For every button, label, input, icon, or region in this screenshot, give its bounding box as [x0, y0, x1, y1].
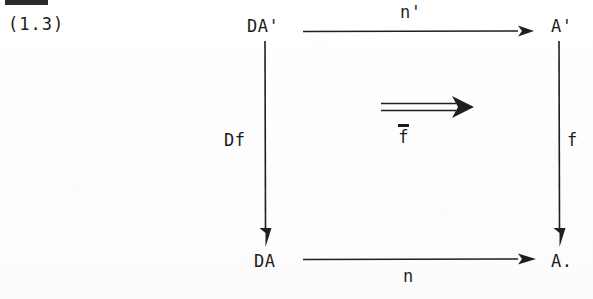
arrow-label-right: f	[567, 132, 578, 149]
arrow-center-double-fbar	[381, 96, 474, 118]
diagram-arrows	[0, 0, 593, 299]
arrow-label-bottom: n	[403, 268, 414, 285]
diagram-page: (1.3) DA' A' DA A. n'	[0, 0, 593, 299]
arrow-label-left: Df	[224, 132, 245, 149]
arrow-right-f	[554, 41, 566, 247]
arrow-top-n-prime	[303, 26, 534, 37]
arrow-label-top: n'	[400, 4, 421, 21]
node-bottom-left: DA	[254, 253, 275, 270]
arrow-bottom-n	[303, 254, 536, 265]
arrow-label-center: f	[398, 124, 409, 146]
node-top-left: DA'	[247, 18, 279, 35]
node-top-right: A'	[551, 18, 572, 35]
arrow-left-df	[260, 41, 272, 247]
arrow-label-center-glyph: f	[398, 129, 409, 146]
node-bottom-right: A.	[551, 253, 572, 270]
